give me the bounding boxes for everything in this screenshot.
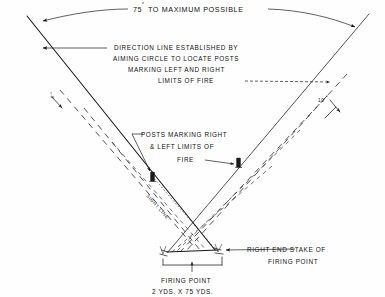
sight-line-label-group: SIGHT LINE bbox=[145, 193, 170, 220]
diagram-canvas: 75 ° TO MAXIMUM POSSIBLE DIRECTION LINE … bbox=[0, 0, 385, 297]
direction-line-note-group: DIRECTION LINE ESTABLISHED BY AIMING CIR… bbox=[113, 44, 239, 84]
right-angle-tick bbox=[330, 100, 340, 112]
left-limit-post bbox=[150, 172, 156, 181]
arc-right-segment bbox=[268, 9, 355, 27]
right-angle-label-group: 10 ° bbox=[318, 95, 328, 103]
posts-left-leader-2 bbox=[132, 134, 150, 171]
arc-left-segment bbox=[43, 9, 128, 21]
right-angle-tick-2 bbox=[325, 107, 336, 118]
arc-value: 75 bbox=[133, 5, 142, 14]
right-stake-note-group: RIGHT END STAKE OF FIRING POINT bbox=[247, 246, 326, 265]
arc-rest-label: TO MAXIMUM POSSIBLE bbox=[148, 5, 244, 14]
limit-posts bbox=[150, 158, 242, 181]
left-angle-label-group: 5 ° bbox=[48, 91, 57, 100]
right-stake-note-line2: FIRING POINT bbox=[268, 258, 318, 265]
direction-note-line1: DIRECTION LINE ESTABLISHED BY bbox=[114, 44, 238, 51]
right-angle-value: 10 bbox=[318, 98, 324, 103]
firing-point-bar bbox=[167, 250, 218, 252]
firing-point-note-line1: FIRING POINT bbox=[161, 277, 211, 284]
firing-point-strip-outline bbox=[163, 257, 222, 265]
posts-note-line2: & LEFT LIMITS OF bbox=[150, 143, 214, 150]
right-fan-line-2 bbox=[180, 96, 327, 252]
right-stake-note-line1: RIGHT END STAKE OF bbox=[247, 246, 326, 253]
limits-of-fire-leader bbox=[245, 81, 330, 82]
direction-note-line2: AIMING CIRCLE TO LOCATE POSTS bbox=[113, 55, 239, 62]
firing-point-sector-diagram: 75 ° TO MAXIMUM POSSIBLE DIRECTION LINE … bbox=[0, 0, 385, 297]
left-dashed-fan bbox=[60, 90, 206, 250]
posts-note-line1: POSTS MARKING RIGHT bbox=[141, 131, 227, 138]
arc-degree-symbol: ° bbox=[142, 1, 145, 7]
left-end-stake bbox=[160, 246, 168, 256]
right-fan-line-4 bbox=[172, 166, 272, 252]
firing-point-note-line2: 2 YDS. X 75 YDS. bbox=[152, 288, 213, 295]
posts-right-leader bbox=[205, 160, 234, 164]
direction-note-line3: MARKING LEFT AND RIGHT bbox=[128, 66, 225, 73]
left-fan-line-2 bbox=[84, 108, 200, 250]
posts-note-line3: FIRE bbox=[177, 156, 194, 163]
posts-note-group: POSTS MARKING RIGHT & LEFT LIMITS OF FIR… bbox=[141, 131, 227, 163]
direction-note-line4: LIMITS OF FIRE bbox=[158, 77, 214, 84]
right-angle-degree: ° bbox=[326, 95, 328, 100]
sight-line-label: SIGHT LINE bbox=[145, 193, 170, 220]
arc-top-label-group: 75 ° TO MAXIMUM POSSIBLE bbox=[133, 1, 244, 14]
right-end-stake bbox=[214, 244, 223, 254]
firing-point-note-group: FIRING POINT 2 YDS. X 75 YDS. bbox=[152, 277, 213, 295]
left-fan-line-1 bbox=[60, 90, 196, 249]
